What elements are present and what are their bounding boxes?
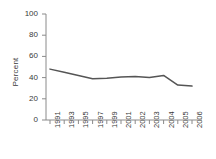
data-series-line	[50, 69, 192, 86]
y-axis-ticks	[42, 14, 46, 120]
x-axis-ticks	[50, 120, 192, 124]
axes	[46, 14, 202, 120]
line-chart: Percent 020406080100 1991199319951997199…	[0, 0, 216, 159]
plot-area	[0, 0, 216, 159]
